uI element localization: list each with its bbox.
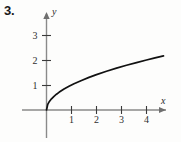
x-tick-label-3: 3	[116, 114, 128, 125]
y-axis-arrow-icon	[43, 12, 49, 19]
y-tick-label-2: 2	[29, 55, 41, 66]
x-tick-label-1: 1	[66, 114, 78, 125]
y-tick-label-3: 3	[29, 30, 41, 41]
figure-container: 3. y x 1 2 3 4 1 2 3	[0, 0, 181, 142]
y-tick-label-1: 1	[29, 80, 41, 91]
x-tick-label-4: 4	[141, 114, 153, 125]
y-axis-label: y	[52, 6, 56, 17]
x-tick-label-2: 2	[91, 114, 103, 125]
x-axis-label: x	[161, 95, 165, 106]
x-axis-arrow-icon	[159, 107, 166, 113]
sqrt-curve	[47, 56, 164, 110]
